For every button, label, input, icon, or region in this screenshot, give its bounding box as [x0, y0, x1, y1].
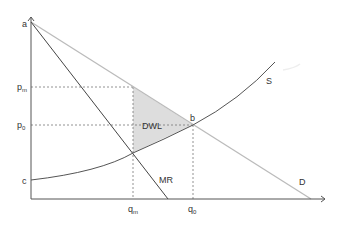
label-dwl: DWL: [142, 121, 162, 131]
dwl-diagram: a pm p0 c qm q0 b DWL MR S D: [0, 0, 343, 229]
label-q0: q0: [188, 204, 197, 215]
artifact-stroke: [283, 64, 300, 70]
label-p0: p0: [17, 120, 26, 131]
label-pm: pm: [17, 82, 27, 93]
label-qm: qm: [128, 204, 138, 215]
label-mr: MR: [159, 175, 173, 185]
label-b: b: [190, 113, 195, 123]
label-a: a: [22, 19, 27, 29]
label-s: S: [266, 76, 272, 86]
axes: [28, 17, 325, 202]
dwl-region: [133, 87, 193, 153]
demand-curve: [31, 22, 311, 199]
label-d: D: [299, 177, 306, 187]
label-c: c: [22, 176, 27, 186]
